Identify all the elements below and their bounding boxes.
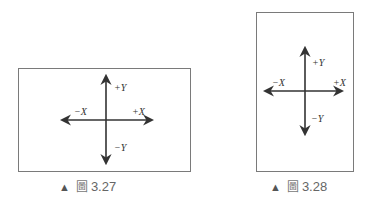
caption-prefix: 圖 — [287, 180, 299, 194]
label-neg-x: −X — [272, 77, 286, 88]
figure-3-28-caption: ▲圖3.28 — [270, 177, 327, 194]
label-neg-y: −Y — [311, 113, 325, 124]
triangle-marker-icon: ▲ — [270, 181, 281, 193]
figure-3-28-axes: +Y −X +X −Y — [0, 0, 371, 204]
caption-number: 3.28 — [302, 179, 327, 194]
label-pos-y: +Y — [312, 57, 326, 68]
label-pos-x: +X — [333, 77, 347, 88]
